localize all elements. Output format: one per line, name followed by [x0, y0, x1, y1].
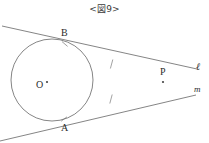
- tick-mark-upper: [110, 60, 112, 69]
- geometry-canvas: [0, 0, 209, 143]
- tangent-line-ell: [2, 26, 197, 69]
- circle-o: [11, 39, 93, 121]
- point-label-p: P: [160, 67, 166, 77]
- intersection-dot-p: [162, 81, 164, 83]
- line-label-m: m: [194, 85, 201, 94]
- tangency-marker-b: [62, 42, 68, 47]
- point-label-b: B: [61, 28, 68, 38]
- geometry-figure: <図9> B A P O ℓ m: [0, 0, 209, 143]
- center-dot: [46, 81, 48, 83]
- tangency-marker-a: [61, 117, 67, 121]
- line-label-ell: ℓ: [196, 62, 200, 72]
- point-label-a: A: [61, 123, 68, 133]
- tick-mark-lower: [110, 95, 112, 104]
- tangent-line-m: [0, 95, 196, 141]
- center-label-o: O: [36, 80, 43, 90]
